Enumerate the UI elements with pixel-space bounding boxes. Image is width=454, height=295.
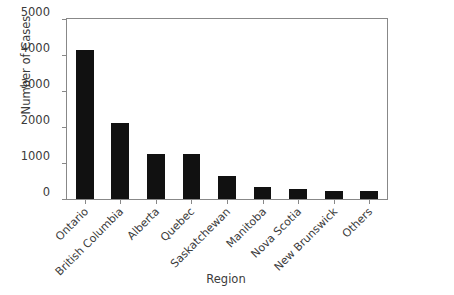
y-tick-label: 1000	[14, 150, 50, 162]
y-tick-label: 0	[14, 186, 50, 198]
y-tick-label: 3000	[14, 78, 50, 90]
x-tick-label-text: Others	[340, 205, 375, 240]
x-axis-title: Region	[66, 272, 386, 286]
x-tick-label-text: Alberta	[125, 205, 162, 242]
x-axis-tick-labels: OntarioBritish ColumbiaAlbertaQuebecSask…	[66, 198, 386, 268]
bar	[76, 50, 94, 199]
y-tick-mark	[62, 163, 67, 164]
x-tick-label-text: British Columbia	[53, 205, 126, 278]
y-tick-mark	[62, 91, 67, 92]
y-tick-label: 4000	[14, 42, 50, 54]
y-tick-label: 5000	[14, 6, 50, 18]
bar-chart: Number of Cases 010002000300040005000 On…	[0, 0, 454, 295]
y-tick-mark	[62, 55, 67, 56]
y-axis-tick-labels: 010002000300040005000	[14, 12, 50, 204]
y-tick-mark	[62, 19, 67, 20]
y-tick-label: 2000	[14, 114, 50, 126]
y-tick-mark	[62, 127, 67, 128]
x-tick-label-text: New Brunswick	[271, 205, 339, 273]
